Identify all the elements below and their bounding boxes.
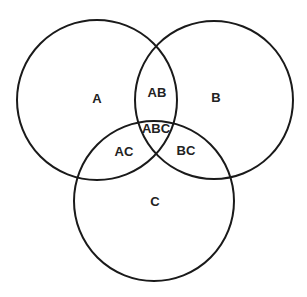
region-label-abc: ABC	[142, 121, 171, 136]
region-label-a: A	[92, 91, 102, 106]
region-label-ac: AC	[115, 144, 134, 159]
region-label-c: C	[150, 194, 160, 209]
venn-diagram: A B C AB AC BC ABC	[0, 0, 307, 297]
region-label-b: B	[211, 90, 220, 105]
region-label-ab: AB	[148, 85, 167, 100]
region-label-bc: BC	[177, 143, 196, 158]
